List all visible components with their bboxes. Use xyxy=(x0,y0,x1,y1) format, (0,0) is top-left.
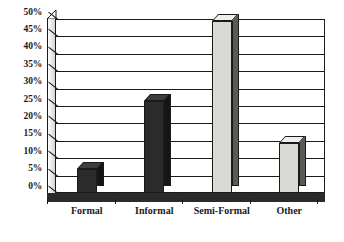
y-axis-tick-label: 30% xyxy=(0,76,42,86)
bar-side-face xyxy=(164,94,171,186)
bar-semi-formal xyxy=(212,21,232,193)
x-axis-tick-label: Other xyxy=(239,205,339,216)
bar-formal xyxy=(77,169,97,193)
x-axis-tick xyxy=(250,199,251,204)
bar-front-face xyxy=(77,169,97,193)
bar-front-face xyxy=(212,21,232,193)
x-axis-labels: FormalInformalSemi-FormalOther xyxy=(47,205,325,225)
plot-area xyxy=(47,19,325,201)
bar-front-face xyxy=(144,101,164,193)
bar-side-face xyxy=(299,136,306,186)
y-axis-tick-label: 35% xyxy=(0,59,42,69)
y-axis-tick-label: 50% xyxy=(0,7,42,17)
bar-other xyxy=(279,143,299,193)
y-axis-tick-label: 45% xyxy=(0,24,42,34)
y-axis-tick-label: 5% xyxy=(0,163,42,173)
bar-series xyxy=(47,19,325,202)
bar-front-face xyxy=(279,143,299,193)
bar-side-face xyxy=(232,14,239,186)
y-axis-tick-label: 40% xyxy=(0,41,42,51)
x-axis-tick xyxy=(115,199,116,204)
x-axis-tick xyxy=(47,199,48,204)
y-axis-tick-label: 0% xyxy=(0,181,42,191)
bar-chart: 0%5%10%15%20%25%30%35%40%45%50% FormalIn… xyxy=(0,0,344,242)
x-axis-tick xyxy=(317,199,318,204)
bar-informal xyxy=(144,101,164,193)
x-axis-tick xyxy=(182,199,183,204)
y-axis-labels: 0%5%10%15%20%25%30%35%40%45%50% xyxy=(0,0,42,242)
y-axis-tick-label: 10% xyxy=(0,146,42,156)
y-axis-tick-label: 25% xyxy=(0,94,42,104)
y-axis-tick-label: 20% xyxy=(0,111,42,121)
y-axis-tick-label: 15% xyxy=(0,128,42,138)
